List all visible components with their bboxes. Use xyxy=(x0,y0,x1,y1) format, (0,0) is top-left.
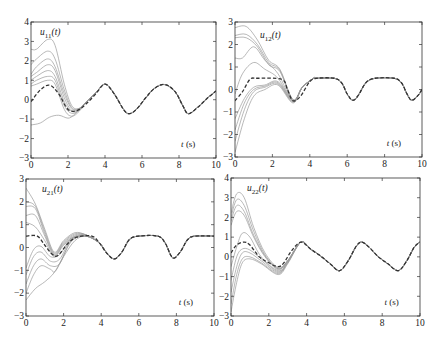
y-tick-label: 0 xyxy=(19,243,24,253)
trial-curve xyxy=(26,235,214,300)
x-tick-label: 0 xyxy=(29,160,34,170)
trial-curve xyxy=(26,202,214,259)
y-tick-label: −3 xyxy=(219,311,229,321)
axes-frame xyxy=(26,179,214,316)
x-tick-label: 6 xyxy=(342,318,347,328)
y-tick-label: −1 xyxy=(219,272,229,282)
trial-curve xyxy=(235,62,422,100)
y-tick-label: 2 xyxy=(19,197,24,207)
x-tick-label: 8 xyxy=(380,318,385,328)
y-tick-label: −1 xyxy=(14,266,24,276)
subplot-u21: 0246810−3−2−10123u21(t)t (s) xyxy=(14,174,219,328)
figure-canvas: 0246810−3−2−101234u11(t)t (s) 0246810−3−… xyxy=(0,0,444,343)
series-label: u22(t) xyxy=(247,183,268,196)
trial-curve xyxy=(26,188,214,259)
trial-curve xyxy=(231,242,420,305)
reference-curve xyxy=(235,78,422,101)
trial-curve xyxy=(26,206,214,259)
series-label: u11(t) xyxy=(40,27,60,40)
axes-frame xyxy=(235,22,422,157)
x-tick-label: 10 xyxy=(415,318,425,328)
x-tick-label: 2 xyxy=(61,318,66,328)
trial-curve xyxy=(235,78,422,119)
x-tick-label: 6 xyxy=(140,160,145,170)
x-tick-label: 6 xyxy=(345,159,350,169)
y-tick-label: −1 xyxy=(223,107,233,117)
y-tick-label: 1 xyxy=(228,62,233,72)
trial-curve xyxy=(235,47,422,101)
x-tick-label: 4 xyxy=(99,318,104,328)
x-axis-label: t (s) xyxy=(181,139,195,149)
x-tick-label: 10 xyxy=(211,160,221,170)
x-tick-label: 4 xyxy=(307,159,312,169)
x-tick-label: 0 xyxy=(24,318,29,328)
series-label: u12(t) xyxy=(260,30,281,43)
y-tick-label: −1 xyxy=(19,114,29,124)
trial-curve xyxy=(235,37,422,101)
x-tick-label: 0 xyxy=(233,159,238,169)
subplot-u12: 0246810−3−2−10123u12(t)t (s) xyxy=(223,17,427,169)
trial-curve xyxy=(235,78,422,142)
y-tick-label: 2 xyxy=(224,213,229,223)
x-tick-label: 4 xyxy=(304,318,309,328)
x-tick-label: 8 xyxy=(174,318,179,328)
y-tick-label: 3 xyxy=(228,17,233,27)
y-tick-label: 4 xyxy=(24,17,29,27)
x-tick-label: 2 xyxy=(66,160,71,170)
x-tick-label: 8 xyxy=(382,159,387,169)
plot-area xyxy=(31,39,216,125)
x-axis-label: t (s) xyxy=(387,138,401,148)
x-axis-label: t (s) xyxy=(179,297,193,307)
x-tick-label: 8 xyxy=(177,160,182,170)
y-tick-label: −3 xyxy=(19,153,29,163)
y-tick-label: 0 xyxy=(24,95,29,105)
y-tick-label: 3 xyxy=(24,37,29,47)
plot-area xyxy=(26,188,214,300)
series-label: u21(t) xyxy=(42,184,63,197)
y-tick-label: 0 xyxy=(228,85,233,95)
y-tick-label: 2 xyxy=(24,56,29,66)
trial-curve xyxy=(231,233,420,271)
y-tick-label: −2 xyxy=(19,134,29,144)
x-tick-label: 4 xyxy=(103,160,108,170)
y-tick-label: −2 xyxy=(219,292,229,302)
x-tick-label: 10 xyxy=(417,159,427,169)
y-tick-label: 1 xyxy=(24,76,29,86)
subplot-u11: 0246810−3−2−101234u11(t)t (s) xyxy=(19,17,221,170)
x-tick-label: 10 xyxy=(209,318,219,328)
trial-curve xyxy=(26,235,214,293)
x-tick-label: 6 xyxy=(136,318,141,328)
y-tick-label: 1 xyxy=(19,220,24,230)
plot-area xyxy=(231,192,420,312)
y-tick-label: 3 xyxy=(19,174,24,184)
y-tick-label: 1 xyxy=(224,232,229,242)
y-tick-label: −3 xyxy=(14,311,24,321)
y-tick-label: 4 xyxy=(224,173,229,183)
y-tick-label: 2 xyxy=(228,40,233,50)
x-tick-label: 2 xyxy=(266,318,271,328)
plot-area xyxy=(235,26,422,153)
subplot-u22: 0246810−3−2−101234u22(t)t (s) xyxy=(219,173,425,328)
x-tick-label: 0 xyxy=(229,318,234,328)
y-tick-label: −2 xyxy=(14,288,24,298)
y-tick-label: 3 xyxy=(224,193,229,203)
y-tick-label: −2 xyxy=(223,130,233,140)
y-tick-label: −3 xyxy=(223,152,233,162)
trial-curve xyxy=(231,192,420,270)
x-tick-label: 2 xyxy=(270,159,275,169)
x-axis-label: t (s) xyxy=(385,297,399,307)
y-tick-label: 0 xyxy=(224,252,229,262)
trial-curve xyxy=(231,205,420,271)
